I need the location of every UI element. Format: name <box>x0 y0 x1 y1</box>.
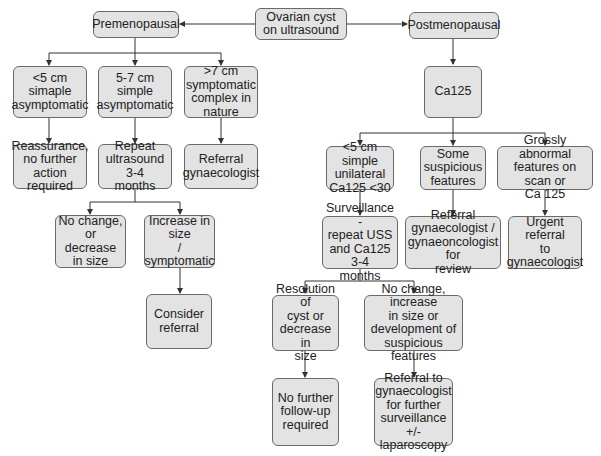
node-post-lt5cm: <5 cm simple unilateral Ca125 <30 <box>326 146 394 190</box>
node-label: Ca125 <box>435 85 472 99</box>
node-label: 5-7 cm simple asymptomatic <box>96 72 173 113</box>
node-label: Increase in size / symptomatic <box>144 215 214 269</box>
node-repeat-ultrasound: Repeat ultrasound 3-4 months <box>98 144 172 189</box>
node-no-change-increase: No change, increase in size or developme… <box>364 295 463 351</box>
node-label: <5 cm simaple asymptomatic <box>11 72 88 113</box>
node-label: No change, increase in size or developme… <box>367 283 460 364</box>
node-label: Reassurance, no further action required <box>11 140 88 194</box>
node-label: Resolution of cyst or decrease in size <box>275 283 336 364</box>
node-urgent-referral: Urgent referral to gynaecologist <box>508 216 582 269</box>
node-grossly-abnormal: Grossly abnormal features on scan or Ca … <box>497 146 593 190</box>
node-label: Some suspicious features <box>424 148 482 189</box>
node-reassurance: Reassurance, no further action required <box>13 144 87 189</box>
node-label: Referral gynaecologist <box>183 153 259 180</box>
node-referral-gynaecologist: Referral gynaecologist <box>184 144 258 189</box>
node-referral-gynaeoncologist: Referral gynaecologist / gynaeoncologist… <box>405 216 501 269</box>
node-label: Repeat ultrasound 3-4 months <box>101 140 169 194</box>
node-consider-referral: Consider referral <box>146 294 212 349</box>
node-label: Consider referral <box>154 308 204 335</box>
node-label: Referral gynaecologist / gynaeoncologist… <box>408 209 498 277</box>
node-label: Grossly abnormal features on scan or Ca … <box>500 134 590 202</box>
node-some-suspicious: Some suspicious features <box>420 146 486 190</box>
node-pre-lt5cm: <5 cm simaple asymptomatic <box>13 66 87 118</box>
node-surveillance: Surveillance - repeat USS and Ca125 3-4 … <box>322 216 398 269</box>
node-pre-5-7cm: 5-7 cm simple asymptomatic <box>98 66 172 118</box>
node-label: No change, or decrease in size <box>58 215 123 269</box>
node-label: <5 cm simple unilateral Ca125 <30 <box>329 141 391 195</box>
node-label: Postmenopausal <box>407 19 500 33</box>
node-label: No further follow-up required <box>278 392 334 433</box>
node-pre-gt7cm: >7 cm symptomatic complex in nature <box>184 66 258 118</box>
node-no-further-follow-up: No further follow-up required <box>272 378 339 446</box>
node-postmenopausal: Postmenopausal <box>409 12 499 39</box>
node-label: Surveillance - repeat USS and Ca125 3-4 … <box>325 202 395 283</box>
node-label: Ovarian cyst on ultrasound <box>263 11 339 38</box>
node-referral-surveillance: Referral to gynaecologist for further su… <box>374 378 453 446</box>
node-label: >7 cm symptomatic complex in nature <box>186 65 256 119</box>
node-premenopausal: Premenopausal <box>93 11 179 38</box>
node-label: Referral to gynaecologist for further su… <box>375 372 451 453</box>
node-ovarian-cyst: Ovarian cyst on ultrasound <box>255 8 347 40</box>
node-ca125: Ca125 <box>424 66 482 118</box>
node-label: Premenopausal <box>92 18 180 32</box>
node-label: Urgent referral to gynaecologist <box>507 216 583 270</box>
node-increase-symptomatic: Increase in size / symptomatic <box>144 215 215 268</box>
node-no-change-decrease: No change, or decrease in size <box>55 215 126 268</box>
node-resolution: Resolution of cyst or decrease in size <box>272 295 339 351</box>
